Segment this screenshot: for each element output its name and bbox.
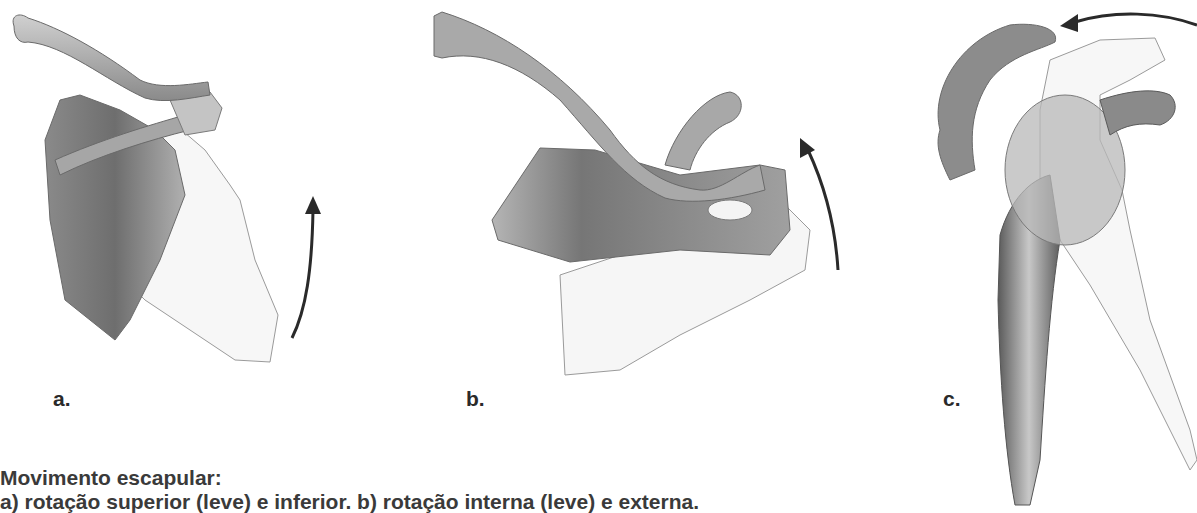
clavicle xyxy=(13,15,210,101)
panel-c xyxy=(900,0,1197,513)
figure-caption: Movimento escapular: a) rotação superior… xyxy=(0,466,699,513)
rotation-arrow xyxy=(808,150,838,270)
caption-title: Movimento escapular: xyxy=(0,466,699,490)
scapular-movement-figure: a. b. c. Movimento escapular: a) rotação… xyxy=(0,0,1197,513)
caption-body: a) rotação superior (leve) e inferior. b… xyxy=(0,490,699,513)
panel-a xyxy=(0,0,360,380)
arrow-head-icon xyxy=(1060,14,1078,32)
coracoid-process xyxy=(1100,91,1175,135)
scapula-tilt-illustration xyxy=(900,0,1197,513)
glenoid xyxy=(708,200,752,220)
arrow-head-icon xyxy=(800,138,815,158)
panel-b xyxy=(420,0,860,380)
arrow-head-icon xyxy=(305,196,321,214)
scapula-upward-rotation-illustration xyxy=(0,0,360,380)
rotation-arrow xyxy=(292,210,313,338)
panel-label-b: b. xyxy=(466,387,485,411)
panel-label-a: a. xyxy=(53,387,71,411)
tilt-arrow xyxy=(1075,14,1197,25)
scapula-internal-rotation-illustration xyxy=(420,0,860,380)
panel-label-c: c. xyxy=(943,387,961,411)
coracoid-process xyxy=(665,92,741,170)
